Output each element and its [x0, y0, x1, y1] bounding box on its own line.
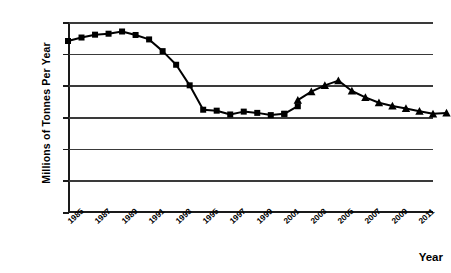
data-point-square	[200, 107, 206, 113]
series-line	[298, 81, 447, 114]
data-point-square	[79, 35, 85, 41]
series-layer	[68, 22, 433, 212]
data-point-square	[160, 48, 166, 54]
data-point-square	[227, 111, 233, 117]
data-point-square	[268, 112, 274, 118]
data-point-triangle	[334, 76, 342, 84]
data-point-square	[295, 103, 301, 109]
data-point-square	[187, 82, 193, 88]
data-point-square	[133, 32, 139, 38]
data-point-square	[146, 36, 152, 42]
data-point-square	[92, 32, 98, 38]
y-axis-title: Millions of Tonnes Per Year	[40, 13, 52, 213]
series-line	[68, 32, 284, 116]
data-point-square	[119, 29, 125, 35]
plot-area	[68, 22, 433, 212]
chart-container: Millions of Tonnes Per Year 600500400300…	[0, 0, 451, 273]
data-point-square	[281, 111, 287, 117]
data-point-square	[214, 108, 220, 114]
data-point-square	[65, 38, 71, 44]
data-point-square	[241, 109, 247, 115]
data-point-square	[254, 110, 260, 116]
x-axis-title: Year	[419, 251, 443, 263]
data-point-square	[106, 31, 112, 37]
y-tick-mark	[63, 212, 69, 214]
data-point-square	[173, 62, 179, 68]
